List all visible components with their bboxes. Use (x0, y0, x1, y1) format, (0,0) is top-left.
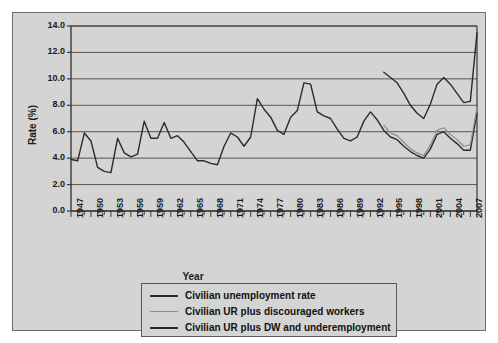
x-tick-label: 1968 (215, 198, 225, 218)
legend-item-label: Civilian UR plus DW and underemployment (185, 322, 391, 333)
x-tick-label: 1956 (135, 198, 145, 218)
x-tick-label: 1962 (175, 198, 185, 218)
x-tick-label: 1980 (295, 198, 305, 218)
y-tick-label: 12.0 (31, 46, 65, 56)
x-tick-label: 1965 (195, 198, 205, 218)
x-tick-label: 2007 (474, 198, 484, 218)
x-tick-label: 1995 (394, 198, 404, 218)
x-tick-label: 1971 (235, 198, 245, 218)
x-tick-label: 2001 (434, 198, 444, 218)
y-tick-label: 2.0 (31, 179, 65, 189)
x-tick-label: 1992 (375, 198, 385, 218)
legend-line-icon (150, 311, 178, 312)
chart-legend: Civilian unemployment rate Civilian UR p… (141, 283, 397, 337)
gridlines (71, 26, 477, 211)
x-tick-label: 1947 (75, 198, 85, 218)
axis-lines (71, 26, 477, 211)
legend-item: Civilian UR plus discouraged workers (150, 304, 396, 319)
x-tick-label: 1989 (355, 198, 365, 218)
legend-item: Civilian unemployment rate (150, 288, 396, 303)
legend-line-icon (150, 295, 178, 297)
legend-item-label: Civilian unemployment rate (185, 290, 316, 301)
legend-line-icon (150, 327, 178, 329)
x-tick-label: 1977 (275, 198, 285, 218)
y-tick-label: 0.0 (31, 205, 65, 215)
legend-item: Civilian UR plus DW and underemployment (150, 320, 396, 335)
data-series (71, 33, 477, 173)
x-axis-title: Year (163, 271, 223, 282)
x-tick-label: 1998 (414, 198, 424, 218)
legend-item-label: Civilian UR plus discouraged workers (185, 306, 365, 317)
y-tick-label: 14.0 (31, 20, 65, 30)
x-tick-label: 1983 (315, 198, 325, 218)
y-axis-title: Rate (%) (27, 85, 38, 165)
x-tick-label: 2004 (454, 198, 464, 218)
x-tick-label: 1950 (95, 198, 105, 218)
x-tick-label: 1986 (335, 198, 345, 218)
x-tick-label: 1953 (115, 198, 125, 218)
axis-ticks (67, 26, 477, 217)
x-tick-label: 1974 (255, 198, 265, 218)
chart-panel: 0.02.04.06.08.010.012.014.0 194719501953… (12, 12, 486, 331)
figure: 0.02.04.06.08.010.012.014.0 194719501953… (0, 0, 498, 343)
y-tick-label: 10.0 (31, 73, 65, 83)
x-tick-label: 1959 (155, 198, 165, 218)
